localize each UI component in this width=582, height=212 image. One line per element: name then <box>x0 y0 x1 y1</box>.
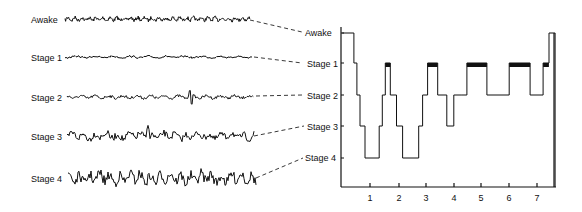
eeg-label-stage1: Stage 1 <box>31 53 62 63</box>
x-tick-label: 7 <box>534 193 539 203</box>
connector-stage1 <box>254 57 302 63</box>
eeg-label-awake: Awake <box>31 15 58 25</box>
x-tick-label: 5 <box>478 193 483 203</box>
rem-bar <box>385 63 390 67</box>
eeg-labels: Awake Stage 1 Stage 2 Stage 3 Stage 4 <box>31 15 62 184</box>
rem-bar <box>467 63 487 67</box>
connector-stage4 <box>256 158 303 178</box>
eeg-trace-stage4 <box>68 169 256 187</box>
connector-awake <box>250 20 302 32</box>
eeg-traces <box>65 16 256 187</box>
hyp-label-stage3: Stage 3 <box>307 122 338 132</box>
eeg-trace-awake <box>65 16 250 22</box>
x-tick-label: 1 <box>367 193 372 203</box>
x-ticks: 1234567 <box>367 183 539 203</box>
x-tick-label: 3 <box>423 193 428 203</box>
rem-bar <box>543 63 549 67</box>
rem-bar <box>509 63 530 67</box>
hypnogram-line <box>342 33 555 187</box>
hypnogram-axes <box>341 27 556 187</box>
hyp-label-stage2: Stage 2 <box>307 91 338 101</box>
hyp-label-stage4: Stage 4 <box>305 153 336 163</box>
connector-stage3 <box>254 126 304 136</box>
eeg-trace-stage1 <box>65 56 252 59</box>
hypnogram-stage-labels: Awake Stage 1 Stage 2 Stage 3 Stage 4 <box>305 28 338 163</box>
eeg-label-stage4: Stage 4 <box>31 174 62 184</box>
dashed-connectors <box>250 20 304 178</box>
eeg-label-stage3: Stage 3 <box>31 132 62 142</box>
eeg-trace-stage2 <box>67 91 253 105</box>
connector-stage2 <box>256 95 302 96</box>
sleep-stages-figure: Awake Stage 1 Stage 2 Stage 3 Stage 4 Aw… <box>0 0 582 212</box>
x-tick-label: 4 <box>451 193 456 203</box>
hypnogram-trace <box>342 33 555 187</box>
hyp-label-stage1: Stage 1 <box>307 59 338 69</box>
hyp-label-awake: Awake <box>305 28 332 38</box>
x-tick-label: 6 <box>506 193 511 203</box>
eeg-trace-stage3 <box>67 125 254 141</box>
eeg-label-stage2: Stage 2 <box>31 93 62 103</box>
rem-bar <box>428 63 438 67</box>
x-tick-label: 2 <box>396 193 401 203</box>
